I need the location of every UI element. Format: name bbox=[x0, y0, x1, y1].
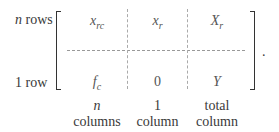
cell-Y: Y bbox=[188, 74, 246, 90]
column-label-line2: column bbox=[128, 114, 187, 130]
left-bracket bbox=[56, 11, 61, 90]
column-label-total: total column bbox=[188, 98, 246, 130]
column-label-1: 1 column bbox=[128, 98, 187, 130]
horizontal-partition bbox=[67, 50, 245, 51]
column-label-line1: total bbox=[188, 98, 246, 114]
cell-sub: r bbox=[219, 20, 223, 31]
cell-X-r: Xr bbox=[188, 13, 246, 31]
column-label-n: n columns bbox=[67, 98, 127, 130]
trailing-period: . bbox=[262, 44, 266, 60]
cell-x-rc: xrc bbox=[67, 13, 127, 31]
column-label-line1: 1 bbox=[128, 98, 187, 114]
cell-sub: c bbox=[97, 81, 101, 92]
column-label-line2: columns bbox=[67, 114, 127, 130]
cell-sub: rc bbox=[96, 20, 104, 31]
cell-zero: 0 bbox=[128, 74, 187, 90]
cell-sub: r bbox=[159, 20, 163, 31]
cell-f-c: fc bbox=[67, 74, 127, 92]
row-label-1-row: 1 row bbox=[15, 75, 47, 91]
column-label-line1: n bbox=[67, 98, 127, 114]
row-label-n-rows: n rows bbox=[15, 12, 53, 28]
cell-x-r: xr bbox=[128, 13, 187, 31]
row-count-var: n bbox=[15, 12, 22, 27]
right-bracket bbox=[250, 11, 255, 90]
row-label-text: rows bbox=[22, 12, 53, 27]
column-label-line2: column bbox=[188, 114, 246, 130]
